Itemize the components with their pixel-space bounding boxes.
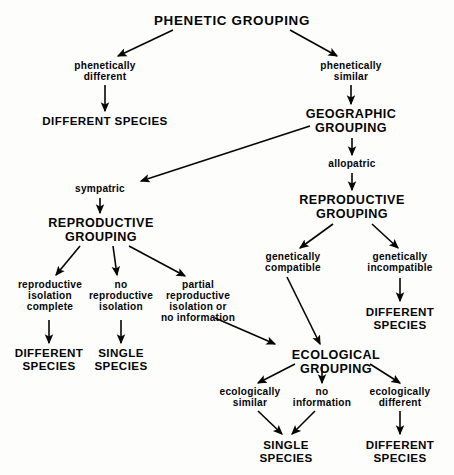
node-genetically_compatible: genetically compatible (265, 252, 321, 274)
arrow-ecologically_similar-to-single_species_2 (258, 411, 282, 434)
node-genetically_incompatible: genetically incompatible (367, 252, 432, 274)
node-single_species_2: SINGLE SPECIES (259, 439, 312, 464)
arrow-phenetic_grouping-to-phenetically_different (118, 30, 173, 56)
node-allopatric: allopatric (328, 159, 375, 170)
node-reproductive_grouping_left: REPRODUCTIVE GROUPING (48, 217, 153, 244)
node-ecological_grouping: ECOLOGICAL GROUPING (277, 349, 395, 376)
arrow-reproductive_grouping_left-to-partial_reproductive_isolation (129, 246, 185, 276)
node-reproductive_grouping_right: REPRODUCTIVE GROUPING (299, 194, 404, 221)
node-ecologically_similar: ecologically similar (220, 387, 281, 409)
arrow-genetically_compatible-to-ecological_grouping (287, 277, 320, 344)
node-different_species_3: DIFFERENT SPECIES (15, 347, 84, 372)
arrow-reproductive_grouping_left-to-reproductive_isolation_complete (56, 246, 80, 275)
arrow-phenetic_grouping-to-phenetically_similar (290, 30, 337, 56)
arrow-reproductive_grouping_right-to-genetically_compatible (300, 224, 333, 248)
node-different_species_2: DIFFERENT SPECIES (366, 306, 435, 331)
node-partial_reproductive_isolation: partial reproductive isolation or no inf… (161, 280, 235, 324)
node-different_species_4: DIFFERENT SPECIES (366, 439, 435, 464)
node-geographic_grouping: GEOGRAPHIC GROUPING (306, 108, 397, 135)
arrow-geographic_grouping-to-sympatric (141, 126, 310, 181)
node-reproductive_isolation_complete: reproductive isolation complete (18, 280, 82, 313)
arrow-reproductive_grouping_left-to-no_reproductive_isolation (113, 246, 117, 275)
node-ecologically_different: ecologically different (370, 387, 431, 409)
node-sympatric: sympatric (75, 184, 125, 195)
node-different_species_1: DIFFERENT SPECIES (42, 115, 167, 128)
node-phenetically_different: phenetically different (74, 61, 135, 83)
node-no_information: no information (293, 387, 351, 409)
arrow-no_information-to-single_species_2 (292, 411, 315, 434)
node-no_reproductive_isolation: no reproductive isolation (89, 280, 153, 313)
node-phenetically_similar: phenetically similar (320, 61, 381, 83)
node-phenetic_grouping: PHENETIC GROUPING (154, 14, 310, 28)
phenetic-grouping-flowchart: PHENETIC GROUPINGphenetically differentp… (0, 0, 454, 475)
node-single_species_1: SINGLE SPECIES (94, 347, 147, 372)
arrow-reproductive_grouping_right-to-genetically_incompatible (372, 224, 398, 248)
